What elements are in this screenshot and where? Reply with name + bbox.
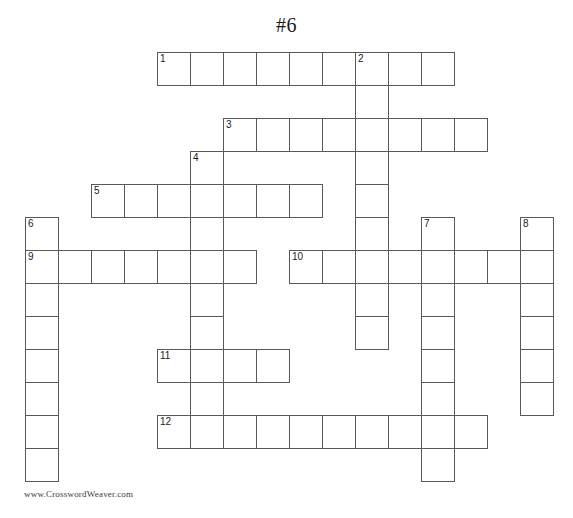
grid-cell[interactable] xyxy=(256,349,290,383)
grid-cell[interactable] xyxy=(421,250,455,284)
cell-number-7: 7 xyxy=(424,218,430,230)
grid-cell[interactable] xyxy=(289,415,323,449)
grid-cell[interactable] xyxy=(256,184,290,218)
grid-cell[interactable] xyxy=(157,250,191,284)
grid-cell[interactable] xyxy=(25,316,59,350)
grid-cell[interactable] xyxy=(190,283,224,317)
cell-number-12: 12 xyxy=(160,416,171,428)
grid-cell[interactable] xyxy=(355,217,389,251)
grid-cell[interactable] xyxy=(421,316,455,350)
cell-number-10: 10 xyxy=(292,251,303,263)
grid-cell[interactable] xyxy=(322,250,356,284)
grid-cell[interactable] xyxy=(421,448,455,482)
cell-number-6: 6 xyxy=(28,218,34,230)
grid-cell[interactable] xyxy=(256,415,290,449)
grid-cell[interactable] xyxy=(388,52,422,86)
grid-cell[interactable]: 7 xyxy=(421,217,455,251)
grid-cell[interactable] xyxy=(289,52,323,86)
grid-cell[interactable]: 10 xyxy=(289,250,323,284)
grid-cell[interactable] xyxy=(91,250,125,284)
grid-cell[interactable] xyxy=(223,250,257,284)
grid-cell[interactable] xyxy=(421,382,455,416)
grid-cell[interactable] xyxy=(157,184,191,218)
grid-cell[interactable] xyxy=(520,283,554,317)
cell-number-2: 2 xyxy=(358,53,364,65)
grid-cell[interactable] xyxy=(25,283,59,317)
grid-cell[interactable]: 3 xyxy=(223,118,257,152)
grid-cell[interactable] xyxy=(190,349,224,383)
cell-number-4: 4 xyxy=(193,152,199,164)
grid-cell[interactable] xyxy=(124,184,158,218)
grid-cell[interactable] xyxy=(190,52,224,86)
grid-cell[interactable] xyxy=(256,52,290,86)
grid-cell[interactable] xyxy=(355,316,389,350)
grid-cell[interactable] xyxy=(520,382,554,416)
crossword-grid: 123456789101112 xyxy=(0,0,573,518)
grid-cell[interactable]: 4 xyxy=(190,151,224,185)
grid-cell[interactable]: 1 xyxy=(157,52,191,86)
grid-cell[interactable]: 12 xyxy=(157,415,191,449)
cell-number-8: 8 xyxy=(523,218,529,230)
grid-cell[interactable] xyxy=(487,250,521,284)
grid-cell[interactable]: 2 xyxy=(355,52,389,86)
grid-cell[interactable] xyxy=(25,349,59,383)
cell-number-3: 3 xyxy=(226,119,232,131)
grid-cell[interactable] xyxy=(388,415,422,449)
grid-cell[interactable] xyxy=(454,250,488,284)
grid-cell[interactable] xyxy=(421,283,455,317)
grid-cell[interactable]: 11 xyxy=(157,349,191,383)
grid-cell[interactable] xyxy=(388,118,422,152)
cell-number-1: 1 xyxy=(160,53,166,65)
grid-cell[interactable]: 9 xyxy=(25,250,59,284)
grid-cell[interactable] xyxy=(421,415,455,449)
grid-cell[interactable] xyxy=(58,250,92,284)
grid-cell[interactable] xyxy=(223,349,257,383)
grid-cell[interactable] xyxy=(322,118,356,152)
grid-cell[interactable] xyxy=(355,283,389,317)
grid-cell[interactable]: 6 xyxy=(25,217,59,251)
footer-credit: www.CrosswordWeaver.com xyxy=(24,489,133,499)
grid-cell[interactable] xyxy=(421,349,455,383)
grid-cell[interactable] xyxy=(355,184,389,218)
cell-number-9: 9 xyxy=(28,251,34,263)
grid-cell[interactable] xyxy=(454,415,488,449)
grid-cell[interactable] xyxy=(190,184,224,218)
grid-cell[interactable]: 5 xyxy=(91,184,125,218)
grid-cell[interactable] xyxy=(190,250,224,284)
grid-cell[interactable] xyxy=(289,184,323,218)
grid-cell[interactable] xyxy=(190,316,224,350)
grid-cell[interactable] xyxy=(355,151,389,185)
grid-cell[interactable] xyxy=(388,250,422,284)
grid-cell[interactable] xyxy=(355,118,389,152)
grid-cell[interactable] xyxy=(520,349,554,383)
grid-cell[interactable] xyxy=(223,184,257,218)
grid-cell[interactable] xyxy=(520,250,554,284)
grid-cell[interactable] xyxy=(256,118,290,152)
grid-cell[interactable]: 8 xyxy=(520,217,554,251)
grid-cell[interactable] xyxy=(190,415,224,449)
grid-cell[interactable] xyxy=(421,52,455,86)
grid-cell[interactable] xyxy=(25,448,59,482)
cell-number-5: 5 xyxy=(94,185,100,197)
grid-cell[interactable] xyxy=(355,85,389,119)
grid-cell[interactable] xyxy=(289,118,323,152)
grid-cell[interactable] xyxy=(454,118,488,152)
grid-cell[interactable] xyxy=(223,52,257,86)
grid-cell[interactable] xyxy=(190,217,224,251)
cell-number-11: 11 xyxy=(160,350,170,362)
grid-cell[interactable] xyxy=(124,250,158,284)
grid-cell[interactable] xyxy=(421,118,455,152)
grid-cell[interactable] xyxy=(25,382,59,416)
grid-cell[interactable] xyxy=(190,382,224,416)
grid-cell[interactable] xyxy=(355,415,389,449)
grid-cell[interactable] xyxy=(322,415,356,449)
grid-cell[interactable] xyxy=(355,250,389,284)
grid-cell[interactable] xyxy=(322,52,356,86)
grid-cell[interactable] xyxy=(25,415,59,449)
grid-cell[interactable] xyxy=(223,415,257,449)
grid-cell[interactable] xyxy=(520,316,554,350)
